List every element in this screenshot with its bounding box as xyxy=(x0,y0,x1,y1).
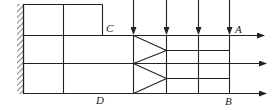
label-d: D xyxy=(95,94,104,106)
triangles xyxy=(134,36,167,94)
fixed-wall xyxy=(17,4,24,94)
label-c: C xyxy=(106,22,114,34)
label-b: B xyxy=(225,95,232,107)
grid-block xyxy=(24,5,134,94)
downward-arrows xyxy=(134,0,230,34)
label-a: A xyxy=(234,23,242,35)
diagram-canvas: C D A B xyxy=(0,0,279,110)
right-section xyxy=(134,36,230,94)
